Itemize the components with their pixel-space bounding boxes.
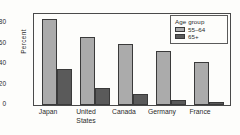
bar-japan-65plus — [57, 69, 72, 105]
bar-united-states-65plus — [95, 88, 110, 105]
x-label-france: France — [172, 108, 228, 117]
y-tick-label-40: 40 — [0, 60, 6, 67]
y-tick-label-0: 0 — [0, 101, 6, 108]
legend: Age group 55–64 65+ — [170, 15, 228, 44]
bar-germany-65plus — [171, 100, 186, 105]
bar-chart: Percent 80 60 40 20 0 — [0, 0, 240, 135]
bar-united-states-55-64 — [80, 37, 95, 105]
x-label-line: France — [172, 108, 228, 117]
legend-title: Age group — [175, 18, 224, 25]
bar-germany-55-64 — [156, 51, 171, 105]
bar-france-55-64 — [194, 62, 209, 105]
legend-swatch-55-64 — [175, 27, 185, 32]
bar-canada-55-64 — [118, 44, 133, 105]
y-tick-label-20: 20 — [0, 81, 6, 88]
plot-area: Age group 55–64 65+ — [33, 13, 231, 106]
x-label-line: States — [58, 117, 114, 126]
bar-france-65plus — [209, 102, 224, 105]
bar-canada-65plus — [133, 94, 148, 105]
legend-swatch-65plus — [175, 34, 185, 39]
legend-item-65plus: 65+ — [175, 34, 224, 40]
legend-item-55-64: 55–64 — [175, 27, 224, 33]
legend-label-65plus: 65+ — [188, 34, 199, 40]
y-tick-label-80: 80 — [0, 19, 6, 26]
y-axis-title: Percent — [20, 16, 27, 68]
y-tick-label-60: 60 — [0, 40, 6, 47]
legend-label-55-64: 55–64 — [188, 27, 205, 33]
bar-japan-55-64 — [42, 19, 57, 105]
